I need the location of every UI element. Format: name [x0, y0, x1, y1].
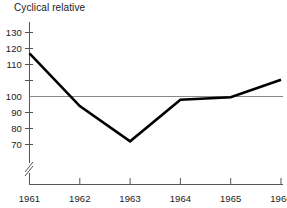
x-tick-label-1961: 1961: [19, 193, 41, 204]
x-axis-ticks: [30, 178, 282, 185]
chart-container: Cyclical relative 130 120 110 100 90 8: [0, 0, 287, 208]
y-tick-label-100: 100: [6, 91, 22, 102]
y-tick-label-130: 130: [6, 27, 22, 38]
y-tick-label-120: 120: [6, 43, 22, 54]
x-tick-label-1962: 1962: [69, 193, 91, 204]
x-tick-label-1963: 1963: [119, 193, 141, 204]
x-tick-label-1966: 1966: [270, 193, 287, 204]
x-tick-label-1965: 1965: [220, 193, 242, 204]
y-tick-label-80: 80: [11, 123, 22, 134]
y-tick-label-70: 70: [11, 139, 22, 150]
chart-plot-area: 130 120 110 100 90 80 70 1961 1962 1963 …: [0, 0, 287, 208]
x-tick-label-1964: 1964: [170, 193, 192, 204]
data-series-line: [30, 53, 282, 141]
y-tick-label-90: 90: [11, 107, 22, 118]
y-tick-label-110: 110: [7, 59, 22, 70]
